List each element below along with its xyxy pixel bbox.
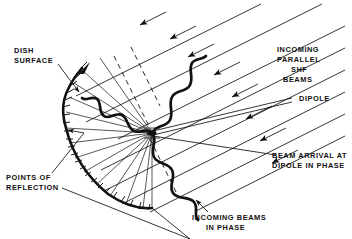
beam-arrow	[188, 44, 214, 57]
beam-arrival-leader-line	[153, 136, 276, 155]
incoming-parallel-label-line4: BEAMS	[283, 75, 312, 84]
points-of-reflection-label-line1: POINTS OF	[6, 173, 51, 182]
reflection-ray	[82, 70, 152, 133]
beam-line	[76, 4, 261, 96]
dish-surface-label-line1: DISH	[14, 46, 34, 55]
incoming-parallel-label-line2: PARALLEL	[277, 55, 320, 64]
label-dish-surface: DISH SURFACE	[14, 46, 53, 65]
beam-line	[196, 136, 345, 211]
beam-arrival-label-line1: BEAM ARRIVAL AT	[272, 151, 347, 160]
incoming-in-phase-label-line2: IN PHASE	[206, 223, 245, 232]
incoming-in-phase-label-line1: INCOMING BEAMS	[192, 213, 266, 222]
beam-arrow	[170, 26, 196, 39]
reflected-rays-to-focus	[66, 58, 152, 208]
label-beam-arrival: BEAM ARRIVAL AT DIPOLE IN PHASE	[272, 151, 347, 170]
beam-arrival-label-line2: DIPOLE IN PHASE	[272, 161, 345, 170]
beam-arrow	[140, 12, 166, 25]
reflection-ray	[69, 133, 152, 143]
beam-line	[122, 92, 345, 204]
incoming-parallel-label-line1: INCOMING	[277, 45, 319, 54]
label-incoming-parallel-shf-beams: INCOMING PARALLEL SHF BEAMS	[277, 45, 320, 84]
wavefront-dash	[114, 56, 154, 136]
label-dipole: DIPOLE	[299, 94, 330, 103]
beam-arrow	[260, 128, 286, 141]
antenna-diagram-svg: DISH SURFACE POINTS OF REFLECTION INCOMI…	[0, 0, 352, 239]
incoming-parallel-beams	[76, 4, 345, 212]
reflection-ray	[75, 133, 152, 158]
por-leader-lower	[62, 188, 190, 239]
dish-surface-label-line2: SURFACE	[14, 56, 53, 65]
diagram-root: DISH SURFACE POINTS OF REFLECTION INCOMI…	[0, 0, 352, 239]
reflection-ray	[96, 133, 152, 185]
points-of-reflection-label-line2: REFLECTION	[6, 183, 59, 192]
label-points-of-reflection: POINTS OF REFLECTION	[6, 173, 59, 192]
beam-direction-arrowheads	[140, 12, 298, 163]
reflection-ray	[66, 112, 152, 133]
wave-trace-lower	[152, 133, 198, 220]
label-incoming-beams-in-phase: INCOMING BEAMS IN PHASE	[192, 213, 266, 232]
dipole-leader-b	[153, 102, 292, 135]
beam-arrival-leader	[153, 136, 276, 155]
incoming-parallel-label-line3: SHF	[291, 65, 307, 74]
beam-arrow	[232, 84, 258, 97]
beam-arrow	[214, 62, 240, 75]
dipole-label-line1: DIPOLE	[299, 94, 330, 103]
dipole-leader-a	[153, 98, 292, 131]
dish-top-arrowhead	[78, 62, 90, 74]
